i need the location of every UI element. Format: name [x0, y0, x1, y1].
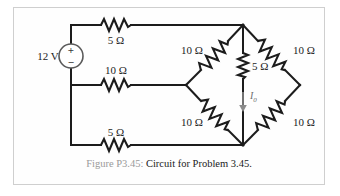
figure-caption: Figure P3.45: Circuit for Problem 3.45. [13, 158, 325, 169]
wire-bridge-lr-lower [243, 130, 258, 145]
resistor-bridge-center-symbol [238, 53, 248, 79]
resistor-bottom-left-label: 5 Ω [108, 126, 124, 138]
resistor-bridge-lower-right-symbol [253, 97, 289, 134]
voltage-source-minus-label: − [68, 56, 74, 68]
current-label: I0 [249, 90, 257, 104]
voltage-source-plus-label: + [68, 44, 74, 56]
resistor-middle-left-symbol [101, 79, 131, 91]
resistor-bridge-center-label: 5 Ω [252, 60, 268, 72]
resistor-bottom-left-symbol [101, 139, 131, 151]
figure-container: + − 12 V I0 5 Ω 10 Ω 5 Ω 10 Ω 10 Ω 5 Ω 1… [0, 0, 340, 196]
resistor-bridge-upper-right-label: 10 Ω [293, 44, 315, 56]
resistor-bridge-upper-left-label: 10 Ω [181, 44, 203, 56]
wire-bridge-ll-lower [228, 130, 243, 145]
wire-bridge-lr-upper [285, 85, 300, 101]
node-bottom-junction [241, 143, 244, 146]
figure-caption-text: Circuit for Problem 3.45. [146, 158, 252, 169]
wire-bridge-ll-upper [186, 85, 201, 101]
resistor-bridge-lower-left-label: 10 Ω [181, 116, 203, 128]
current-arrow-head [239, 105, 247, 112]
wire-bridge-ur-upper [243, 25, 258, 41]
resistor-bridge-lower-right-label: 10 Ω [293, 116, 315, 128]
resistor-middle-left-label: 10 Ω [105, 64, 127, 76]
voltage-source-value-label: 12 V [37, 50, 59, 62]
wire-source-to-top-left [71, 25, 101, 44]
wire-bridge-ur-lower [285, 70, 300, 85]
wire-bridge-ul-upper [228, 25, 243, 41]
figure-caption-number: Figure P3.45: [86, 158, 143, 169]
resistor-top-left-symbol [101, 19, 131, 31]
wire-bridge-ul-lower [186, 70, 201, 85]
node-top-junction [241, 23, 244, 26]
resistor-top-left-label: 5 Ω [108, 34, 124, 46]
